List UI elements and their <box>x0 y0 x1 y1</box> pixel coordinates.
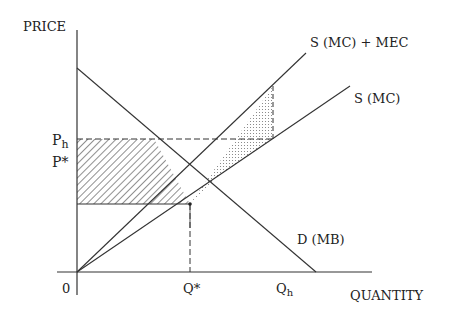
equilibrium-point <box>188 202 192 206</box>
qh-label: Qh <box>276 281 294 298</box>
ph-label: Ph <box>52 132 69 151</box>
supply-mec-label: S (MC) + MEC <box>310 35 408 50</box>
externality-chart: PRICE QUANTITY 0 Ph P* Q* Qh S (MC) + ME… <box>0 0 456 323</box>
pstar-label: P* <box>52 154 68 170</box>
hatched-area <box>77 139 190 204</box>
qstar-label: Q* <box>183 281 201 296</box>
origin-label: 0 <box>62 281 70 296</box>
supply-mc-label: S (MC) <box>354 91 400 106</box>
price-axis-label: PRICE <box>23 19 66 34</box>
quantity-axis-label: QUANTITY <box>350 288 423 303</box>
demand-label: D (MB) <box>297 232 345 247</box>
